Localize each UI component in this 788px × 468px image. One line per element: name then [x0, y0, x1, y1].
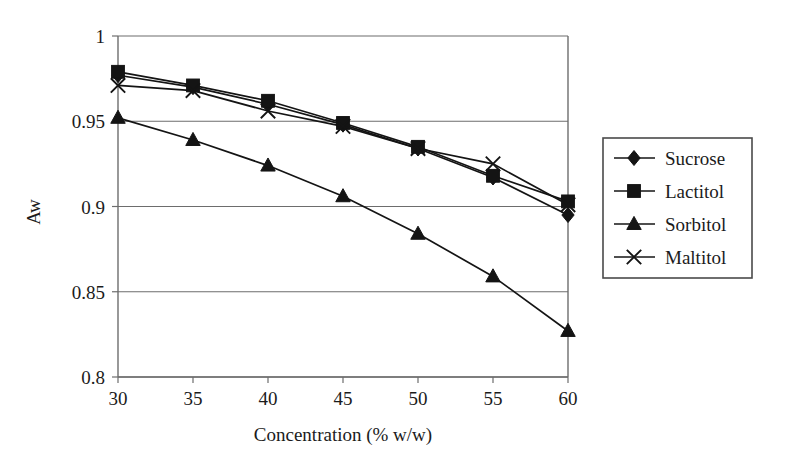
legend-marker-lactitol — [628, 185, 641, 198]
y-tick-label-1: 1 — [96, 26, 106, 47]
x-tick-label-40: 40 — [259, 388, 278, 409]
datapoint-lactitol-55 — [487, 169, 500, 182]
y-axis-title: Aw — [23, 199, 44, 225]
line-chart: 10.950.90.850.8 30354045505560 Concentra… — [0, 0, 788, 468]
y-tick-label-0.95: 0.95 — [72, 111, 105, 132]
x-tick-label-50: 50 — [409, 388, 428, 409]
x-tick-label-60: 60 — [559, 388, 578, 409]
y-tick-label-0.85: 0.85 — [72, 282, 105, 303]
x-tick-label-35: 35 — [184, 388, 203, 409]
legend-label-sucrose: Sucrose — [665, 148, 725, 169]
legend-label-maltitol: Maltitol — [665, 247, 726, 268]
x-tick-label-45: 45 — [334, 388, 353, 409]
x-tick-label-55: 55 — [484, 388, 503, 409]
x-tick-label-30: 30 — [109, 388, 128, 409]
chart-figure: 10.950.90.850.8 30354045505560 Concentra… — [0, 0, 788, 468]
legend-label-lactitol: Lactitol — [665, 181, 724, 202]
legend-label-sorbitol: Sorbitol — [665, 214, 726, 235]
x-axis-title: Concentration (% w/w) — [254, 424, 432, 446]
datapoint-lactitol-30 — [112, 65, 125, 78]
y-tick-label-0.8: 0.8 — [81, 367, 105, 388]
y-tick-label-0.9: 0.9 — [81, 197, 105, 218]
